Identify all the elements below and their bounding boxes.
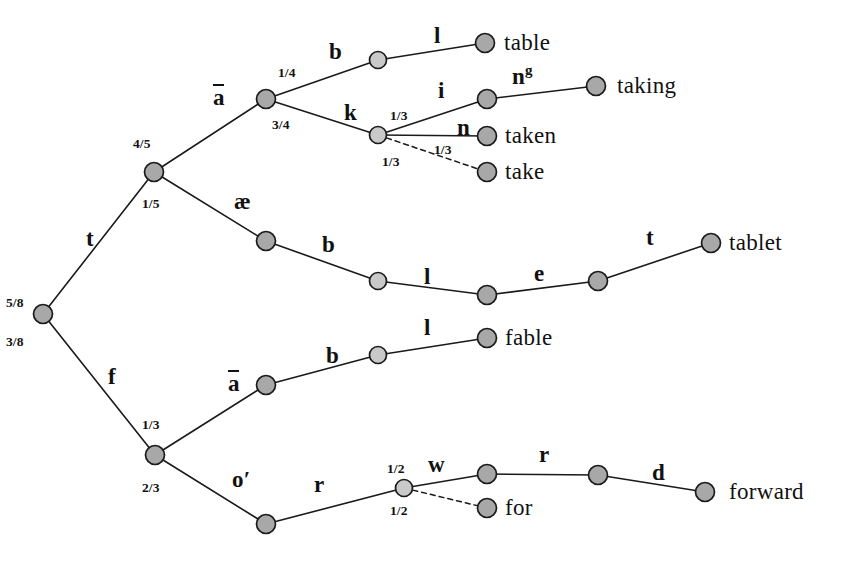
tree-edge-for_br-to-for <box>404 488 487 508</box>
tree-edge-taki-to-taking <box>487 86 596 99</box>
nodes-layer <box>34 34 721 534</box>
probability-label-prob-1-4: 1/4 <box>278 66 296 80</box>
arc-symbol-sym-t: t <box>86 227 94 250</box>
probability-label-prob-1-3c: 1/3 <box>382 155 400 169</box>
tree-node-taeb[interactable] <box>370 273 387 290</box>
tree-node-fa[interactable] <box>257 376 276 395</box>
arc-symbol-sym-b3: b <box>326 344 339 367</box>
tree-edge-fa-to-fab <box>266 355 378 385</box>
tree-node-f[interactable] <box>146 446 165 465</box>
probability-label-prob-3-8: 3/8 <box>6 335 24 349</box>
arc-symbol-sym-ae: æ <box>234 190 251 213</box>
probability-label-prob-3-4: 3/4 <box>272 118 290 132</box>
tree-node-forward[interactable] <box>696 483 715 502</box>
tree-edge-fo-to-for_br <box>266 488 404 524</box>
tree-node-for[interactable] <box>478 499 497 518</box>
arc-symbol-sym-oprime: o′ <box>232 468 250 491</box>
probability-label-prob-1-3a: 1/3 <box>390 109 408 123</box>
arc-symbol-sym-r2: r <box>539 443 549 466</box>
arc-symbol-sym-l2: l <box>424 265 431 288</box>
arc-symbol-sym-a-lower: a <box>228 372 240 395</box>
tree-edge-root-to-f <box>43 314 155 455</box>
macron-glyph: a <box>228 372 240 395</box>
arc-symbol-sym-ng: ng <box>512 63 533 88</box>
probability-label-prob-4-5: 4/5 <box>133 137 151 151</box>
arc-symbol-sym-n: n <box>457 116 470 139</box>
arc-symbol-sym-d: d <box>652 461 665 484</box>
arc-symbol-sym-a-upper: a <box>213 86 225 109</box>
tree-node-take[interactable] <box>478 163 497 182</box>
arc-symbol-sym-l1: l <box>434 24 441 47</box>
tree-node-ta[interactable] <box>257 90 276 109</box>
probability-label-prob-1-2a: 1/2 <box>387 462 405 476</box>
tree-node-tab[interactable] <box>370 52 387 69</box>
tree-edge-taeble-to-tablet <box>598 243 711 281</box>
tree-edge-forw-to-forwr <box>487 474 598 475</box>
tree-edge-for_br-to-forw <box>404 474 487 488</box>
arc-symbol-sym-b1: b <box>329 40 342 63</box>
terminal-word-word-tablet: tablet <box>729 231 782 254</box>
terminal-word-word-table: table <box>504 31 550 54</box>
arc-symbol-sym-b2: b <box>322 233 335 256</box>
tree-node-forw[interactable] <box>478 465 497 484</box>
arc-symbol-sym-k: k <box>344 101 357 124</box>
arc-symbol-sym-w: w <box>428 453 445 476</box>
terminal-word-word-take: take <box>505 160 545 183</box>
probability-label-prob-2-3: 2/3 <box>142 481 160 495</box>
tree-edge-fab-to-fable <box>378 338 487 355</box>
arc-symbol-sym-t2: t <box>646 226 654 249</box>
tree-node-root[interactable] <box>34 305 53 324</box>
tree-node-taeble[interactable] <box>589 272 608 291</box>
tree-node-for_br[interactable] <box>396 480 413 497</box>
tree-node-table[interactable] <box>476 34 495 53</box>
tree-edge-tak-to-taken <box>378 135 487 136</box>
terminal-word-word-fable: fable <box>505 326 552 349</box>
tree-node-tablet[interactable] <box>702 234 721 253</box>
tree-edge-f-to-fa <box>155 385 266 455</box>
tree-node-taking[interactable] <box>587 77 606 96</box>
tree-edge-taeb-to-taebl <box>378 281 487 295</box>
probability-label-prob-1-3b: 1/3 <box>434 143 452 157</box>
tree-edge-root-to-t <box>43 172 154 314</box>
tree-node-fable[interactable] <box>478 329 497 348</box>
arc-symbol-sym-l3: l <box>424 316 431 339</box>
probability-label-prob-1-5: 1/5 <box>142 197 160 211</box>
macron-glyph: a <box>213 86 225 109</box>
terminal-word-word-taken: taken <box>505 124 556 147</box>
arc-symbol-sym-r1: r <box>314 473 324 496</box>
tree-node-fo[interactable] <box>257 515 276 534</box>
tree-node-t[interactable] <box>145 163 164 182</box>
arc-symbol-sym-f: f <box>108 365 116 388</box>
tree-node-tak[interactable] <box>370 127 387 144</box>
lexical-tree-figure: tfaæbklingnbletablo′rwrd 5/83/84/51/51/4… <box>0 0 847 564</box>
arc-symbol-sym-i: i <box>438 79 445 102</box>
superscript-glyph: g <box>525 62 533 78</box>
probability-label-prob-1-3d: 1/3 <box>142 418 160 432</box>
tree-edge-tab-to-table <box>378 43 485 60</box>
terminal-word-word-forward: forward <box>729 480 804 503</box>
terminal-word-word-taking: taking <box>617 74 676 97</box>
tree-node-fab[interactable] <box>370 347 387 364</box>
tree-node-forwr[interactable] <box>589 466 608 485</box>
probability-label-prob-5-8: 5/8 <box>6 296 24 310</box>
terminal-word-word-for: for <box>505 496 533 519</box>
tree-node-taken[interactable] <box>478 127 497 146</box>
tree-node-taebl[interactable] <box>478 286 497 305</box>
probability-label-prob-1-2b: 1/2 <box>390 504 408 518</box>
tree-edge-t-to-ta <box>154 99 266 172</box>
tree-node-tae[interactable] <box>257 232 276 251</box>
tree-node-taki[interactable] <box>478 90 497 109</box>
arc-symbol-sym-e: e <box>534 262 544 285</box>
